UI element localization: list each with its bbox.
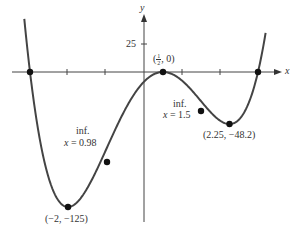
x-axis-label: x	[285, 66, 289, 76]
inflection-left-label-line1: inf.	[76, 126, 90, 136]
root-right-point	[255, 69, 261, 75]
inflection-right-label-line2: x = 1.5	[163, 110, 191, 120]
double-root-label: (12, 0)	[153, 53, 175, 66]
min-right-point	[226, 121, 232, 127]
inflection-right-label-line1: inf.	[173, 99, 187, 109]
function-graph	[0, 0, 292, 226]
x-axis-arrow-icon	[274, 69, 282, 75]
min-left-label: (−2, −125)	[45, 214, 88, 224]
double-root-point	[160, 69, 166, 75]
min-left-point	[65, 204, 71, 210]
inflection-left-label-line2: x = 0.98	[64, 138, 97, 148]
y-tick-label-25: 25	[126, 39, 136, 49]
function-curve	[24, 19, 265, 207]
y-axis-label: y	[140, 3, 144, 13]
min-right-label: (2.25, −48.2)	[203, 130, 255, 140]
inflection-left-point	[104, 159, 110, 165]
inflection-right-point	[198, 108, 204, 114]
root-left-point	[27, 69, 33, 75]
y-axis-arrow-icon	[141, 14, 147, 22]
